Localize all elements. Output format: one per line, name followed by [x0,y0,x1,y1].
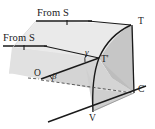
figure-container: From S From S T T' O C V β γ [0,0,155,129]
diagram-canvas [0,0,155,129]
label-point-t: T [138,17,144,27]
label-point-t-prime: T' [101,55,109,65]
label-from-s-upper: From S [37,8,69,19]
label-from-s-upper-text: From S [37,7,69,18]
label-from-s-lower-text: From S [3,32,35,43]
label-from-s-lower: From S [3,33,35,44]
label-point-v: V [89,114,96,124]
label-point-o: O [34,69,41,79]
label-point-c: C [138,85,144,95]
label-angle-beta: β [52,72,56,81]
label-angle-gamma: γ [85,48,89,57]
